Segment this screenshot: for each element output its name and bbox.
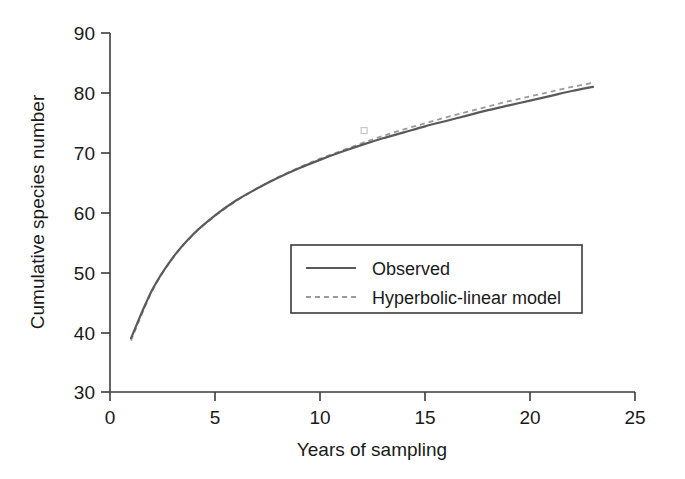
x-tick-label-10: 10: [309, 407, 330, 428]
chart-svg: 90 80 70 60 50 40 30 0 5 10 15 20 25 Yea…: [0, 0, 685, 479]
x-tick-label-20: 20: [519, 407, 540, 428]
x-tick-label-0: 0: [105, 407, 116, 428]
y-tick-label-50: 50: [74, 263, 95, 284]
y-tick-label-40: 40: [74, 323, 95, 344]
y-tick-label-80: 80: [74, 83, 95, 104]
legend: Observed Hyperbolic-linear model: [291, 245, 582, 313]
x-tick-label-15: 15: [414, 407, 435, 428]
chart-background: [0, 0, 685, 479]
x-tick-label-25: 25: [624, 407, 645, 428]
species-accumulation-chart: 90 80 70 60 50 40 30 0 5 10 15 20 25 Yea…: [0, 0, 685, 479]
y-tick-label-30: 30: [74, 382, 95, 403]
legend-label-hyperbolic-linear-model: Hyperbolic-linear model: [372, 288, 561, 308]
y-tick-label-90: 90: [74, 23, 95, 44]
y-axis-title: Cumulative species number: [27, 94, 48, 329]
legend-label-observed: Observed: [372, 259, 450, 279]
x-tick-label-5: 5: [210, 407, 221, 428]
y-tick-label-70: 70: [74, 143, 95, 164]
y-tick-label-60: 60: [74, 203, 95, 224]
x-axis-title: Years of sampling: [297, 439, 447, 460]
